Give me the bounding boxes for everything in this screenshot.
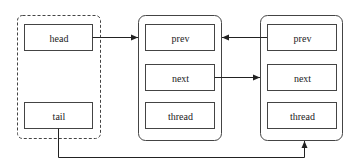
node-1-next-label: next xyxy=(146,65,215,91)
node-2-prev-label: prev xyxy=(268,25,337,51)
node-2-next-label: next xyxy=(268,65,337,91)
tail-label: tail xyxy=(25,103,93,129)
node-2-thread-label: thread xyxy=(268,103,337,129)
linked-list-diagram: head tail prev next thread prev next thr… xyxy=(0,0,363,168)
head-label: head xyxy=(25,25,93,51)
node-1-thread-label: thread xyxy=(146,103,215,129)
tail-to-node-2-arrow xyxy=(59,129,305,158)
node-1-prev-label: prev xyxy=(146,25,215,51)
